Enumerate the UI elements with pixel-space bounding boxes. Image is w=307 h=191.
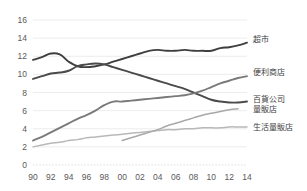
chart-legend: 超市 便利商店 百貨公司 量販店 生活量販店 bbox=[253, 34, 293, 132]
x-axis-tick-label: 94 bbox=[64, 172, 74, 182]
chart-svg: 0246810121416 90929496980002040608101214… bbox=[0, 0, 307, 191]
x-axis-tick-label: 10 bbox=[207, 172, 217, 182]
series-line bbox=[33, 43, 247, 68]
x-axis-tick-label: 04 bbox=[153, 172, 163, 182]
series-line bbox=[33, 76, 247, 140]
x-axis-tick-label: 06 bbox=[171, 172, 181, 182]
legend-item-convenience-store: 便利商店 bbox=[253, 67, 285, 77]
x-axis-tick-label: 96 bbox=[82, 172, 92, 182]
y-axis-tick-label: 12 bbox=[18, 51, 28, 61]
y-axis-tick-label: 14 bbox=[18, 33, 28, 43]
series-line bbox=[122, 109, 238, 141]
x-axis-tick-label: 98 bbox=[100, 172, 110, 182]
y-axis-tick-label: 0 bbox=[22, 160, 27, 170]
y-axis-tick-label: 10 bbox=[18, 69, 28, 79]
x-axis-tick-labels: 90929496980002040608101214 bbox=[28, 172, 252, 182]
gridlines bbox=[33, 20, 247, 165]
y-axis-tick-label: 4 bbox=[22, 124, 27, 134]
series-line bbox=[33, 64, 247, 103]
x-axis-tick-label: 08 bbox=[189, 172, 199, 182]
x-axis-tick-label: 02 bbox=[135, 172, 145, 182]
x-axis-tick-label: 92 bbox=[46, 172, 56, 182]
y-axis-tick-label: 16 bbox=[18, 15, 28, 25]
y-axis-tick-label: 8 bbox=[22, 88, 27, 98]
x-axis-tick-label: 90 bbox=[28, 172, 38, 182]
y-axis-tick-label: 2 bbox=[22, 142, 27, 152]
x-axis-tick-label: 14 bbox=[242, 172, 252, 182]
y-axis-tick-labels: 0246810121416 bbox=[18, 15, 28, 170]
data-series bbox=[33, 43, 247, 147]
x-axis-tick-label: 12 bbox=[224, 172, 234, 182]
y-axis-tick-label: 6 bbox=[22, 106, 27, 116]
legend-item-lifestyle-superstore: 生活量販店 bbox=[253, 122, 293, 132]
series-line bbox=[33, 127, 247, 147]
legend-item-department-store: 百貨公司 bbox=[253, 94, 285, 104]
x-axis-tick-label: 00 bbox=[117, 172, 127, 182]
legend-item-department-store-line2: 量販店 bbox=[253, 104, 277, 114]
line-chart: 0246810121416 90929496980002040608101214… bbox=[0, 0, 307, 191]
legend-item-supermarket: 超市 bbox=[253, 34, 269, 44]
